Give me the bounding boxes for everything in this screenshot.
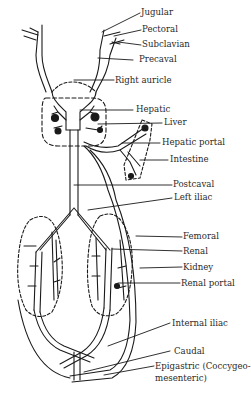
label-hepatic: Hepatic bbox=[136, 105, 170, 114]
label-femoral: Femoral bbox=[183, 232, 219, 241]
label-renal-portal: Renal portal bbox=[181, 279, 235, 288]
label-pectoral: Pectoral bbox=[142, 25, 178, 34]
label-renal: Renal bbox=[183, 247, 208, 256]
label-subclavian: Subclavian bbox=[142, 40, 190, 49]
label-hepatic-portal: Hepatic portal bbox=[162, 138, 225, 147]
label-caudal: Caudal bbox=[174, 347, 205, 356]
venous-system-drawing bbox=[0, 0, 251, 394]
label-left-iliac: Left iliac bbox=[174, 193, 212, 202]
liver-outline bbox=[42, 98, 106, 146]
internal-iliac-vessel bbox=[34, 310, 94, 362]
label-intestine: Intestine bbox=[170, 155, 209, 164]
label-right-auricle: Right auricle bbox=[115, 76, 172, 85]
right-jugular-vessel bbox=[90, 30, 104, 92]
label-internal-iliac: Internal iliac bbox=[172, 319, 228, 328]
label-liver: Liver bbox=[164, 118, 187, 127]
left-jugular-vessel bbox=[42, 25, 52, 92]
label-precaval: Precaval bbox=[139, 55, 177, 64]
label-epigastric: Epigastric (Coccygeo- bbox=[155, 362, 251, 371]
label-postcaval: Postcaval bbox=[173, 180, 214, 189]
postcaval-vessel bbox=[70, 130, 78, 215]
label-kidney: Kidney bbox=[183, 263, 213, 272]
label-jugular: Jugular bbox=[141, 8, 173, 17]
label-epigastric-cont: mesenteric) bbox=[155, 374, 207, 383]
